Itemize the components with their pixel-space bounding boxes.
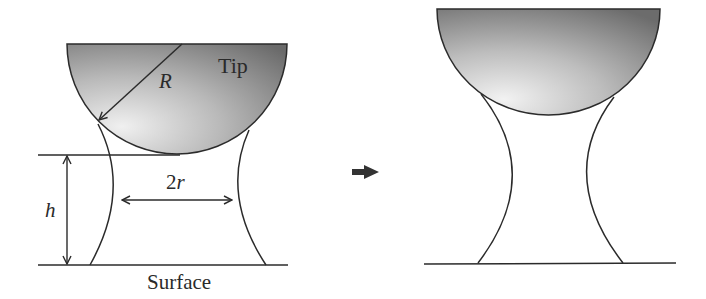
surface-label: Surface [147, 272, 211, 293]
right-arrow-icon [352, 165, 379, 179]
neck-width-text: 2r [166, 170, 185, 194]
meniscus-left-edge [478, 94, 512, 263]
meniscus-left-edge [90, 124, 113, 265]
surface-line [424, 263, 676, 264]
meniscus-right-edge [587, 97, 623, 263]
height-label: h [45, 200, 56, 221]
tip-label: Tip [218, 55, 248, 77]
tip-hemisphere [67, 44, 287, 154]
neck-width-label: 2r [166, 172, 185, 193]
right-panel [424, 9, 676, 264]
radius-label: R [159, 71, 172, 92]
capillary-diagram [0, 0, 706, 299]
meniscus-right-edge [238, 130, 266, 265]
tip-hemisphere [437, 9, 660, 115]
